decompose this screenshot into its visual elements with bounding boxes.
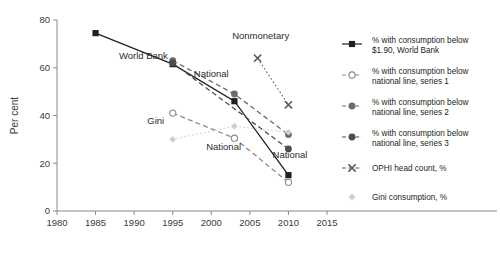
data-point-marker: [254, 55, 261, 62]
chart-container: 020406080Per cent19801985199019952000200…: [0, 0, 500, 261]
x-tick-label: 1990: [124, 217, 145, 228]
legend-label: Gini consumption, %: [372, 193, 447, 202]
legend-label: national line, series 3: [372, 139, 449, 148]
y-tick-label: 0: [45, 205, 50, 216]
series-national: [169, 57, 292, 138]
legend-item[interactable]: OPHI head count, %: [342, 164, 447, 173]
data-point-marker: [285, 179, 291, 185]
y-axis-title: Per cent: [9, 97, 20, 134]
data-point-marker: [349, 103, 356, 110]
legend-label: OPHI head count, %: [372, 164, 447, 173]
legend-label: % with consumption below: [372, 36, 469, 45]
chart-annotation: National: [194, 68, 229, 79]
data-point-marker: [170, 110, 176, 116]
legend-item[interactable]: Gini consumption, %: [349, 193, 447, 202]
data-point-marker: [231, 98, 237, 104]
x-tick-label: 2015: [316, 217, 337, 228]
data-point-marker: [349, 41, 355, 47]
legend-item[interactable]: % with consumption below$1.90, World Ban…: [342, 36, 469, 55]
chart-annotation: Nonmonetary: [232, 30, 289, 41]
chart-annotation: Gini: [147, 115, 164, 126]
y-tick-label: 60: [39, 62, 50, 73]
series-nonmonetary: [254, 55, 292, 109]
data-point-marker: [231, 91, 238, 98]
data-point-marker: [285, 172, 291, 178]
data-point-marker: [285, 101, 292, 108]
series-gini: [169, 123, 292, 143]
data-point-marker: [169, 60, 176, 67]
x-tick-label: 1985: [85, 217, 106, 228]
legend-item[interactable]: % with consumption belownational line, s…: [342, 129, 469, 148]
series-national: [169, 60, 292, 153]
series-line: [173, 126, 289, 139]
legend-item[interactable]: % with consumption belownational line, s…: [342, 98, 469, 117]
data-point-marker: [92, 30, 98, 36]
legend-label: national line, series 1: [372, 77, 449, 86]
legend-label: % with consumption below: [372, 98, 469, 107]
data-point-marker: [349, 72, 355, 78]
x-tick-label: 1995: [162, 217, 183, 228]
chart-plot: 020406080Per cent19801985199019952000200…: [0, 0, 500, 261]
series-line: [173, 61, 289, 135]
chart-annotation: National: [273, 149, 308, 160]
legend-label: $1.90, World Bank: [372, 46, 440, 55]
chart-annotation: National: [206, 141, 241, 152]
x-tick-label: 2005: [239, 217, 260, 228]
y-tick-label: 20: [39, 158, 50, 169]
chart-annotation: World Bank: [119, 50, 168, 61]
y-tick-label: 40: [39, 110, 50, 121]
x-tick-label: 1980: [46, 217, 67, 228]
legend-label: % with consumption below: [372, 129, 469, 138]
legend-label: % with consumption below: [372, 67, 469, 76]
legend-item[interactable]: % with consumption belownational line, s…: [342, 67, 469, 86]
data-point-marker: [349, 194, 356, 201]
data-point-marker: [231, 123, 238, 130]
series-line: [258, 58, 289, 105]
data-point-marker: [349, 134, 356, 141]
x-tick-label: 2000: [201, 217, 222, 228]
x-tick-label: 2010: [278, 217, 299, 228]
legend-label: national line, series 2: [372, 108, 449, 117]
data-point-marker: [169, 136, 176, 143]
y-tick-label: 80: [39, 14, 50, 25]
